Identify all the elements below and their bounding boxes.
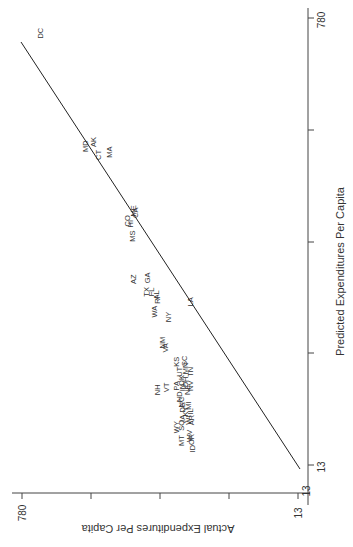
origin-tick-label: 13 [301,485,312,497]
axis-titles: Predicted Expenditures Per CapitaActual … [81,186,346,535]
fit-line [21,42,300,469]
point-label-il: IL [186,408,195,414]
point-label-ga: GA [143,272,152,283]
predicted-tick-label-min: 13 [316,461,327,473]
point-label-id: ID [188,444,197,452]
point-label-nv: NV [186,380,195,390]
predicted-tick-label-max: 780 [316,11,327,28]
point-label-ca: CA [131,207,140,217]
axes: 780137801313 [12,8,327,521]
actual-tick-label-max: 780 [17,504,28,521]
point-label-wa: WA [150,306,159,318]
point-label-vt: VT [162,382,171,392]
point-label-ny: NY [164,312,173,322]
point-label-ms: MS [128,230,137,241]
point-label-ar: AR [187,414,196,425]
state-labels: DCMDAKCTMAMECACOHIMSGAAZTXFLALRIWANYLANM… [36,27,198,452]
actual-tick-label-min: 13 [293,507,304,519]
regression-line [21,42,300,469]
point-label-hi: HI [126,220,135,228]
point-label-az: AZ [129,274,138,284]
point-label-nh: NH [153,384,162,395]
scatter-plot: 780137801313 DCMDAKCTMAMECACOHIMSGAAZTXF… [0,0,353,547]
point-label-va: VA [161,343,170,352]
y-axis-title: Actual Expenditures Per Capita [81,523,235,535]
point-label-la: LA [186,297,195,306]
x-axis-title: Predicted Expenditures Per Capita [334,186,346,356]
point-label-or: OR [187,433,196,445]
point-label-ri: RI [153,296,162,304]
point-label-wy: WY [172,421,181,433]
point-label-dc: DC [36,27,45,38]
point-label-ct: CT [94,150,103,160]
point-label-pa: PA [172,381,181,390]
point-label-tn: TN [186,367,195,377]
point-label-ak: AK [89,137,98,147]
point-label-ma: MA [105,146,114,157]
